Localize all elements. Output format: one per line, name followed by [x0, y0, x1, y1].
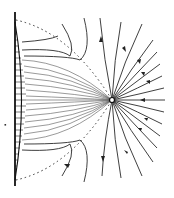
arrow-icon: [122, 46, 126, 52]
point-sink: [110, 98, 115, 103]
wall-streamlines: [22, 60, 112, 140]
upper-loops: [22, 18, 87, 60]
lower-loops: [22, 140, 87, 182]
arrow-icon: [124, 150, 128, 154]
marker-dot: [5, 124, 7, 126]
arrow-icon: [140, 98, 145, 102]
streamline-figure: [0, 0, 174, 198]
flow-diagram: [0, 0, 174, 198]
arrow-icon: [101, 156, 105, 162]
arrow-icon: [144, 118, 148, 121]
